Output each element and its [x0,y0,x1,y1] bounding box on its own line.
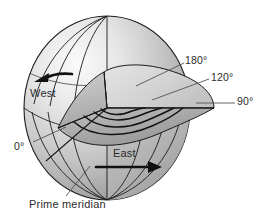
globe-diagram [0,0,264,220]
label-0-degrees: 0° [14,140,24,152]
label-120-degrees: 120° [211,71,234,83]
label-prime-meridian: Prime meridian [29,198,106,210]
longitude-globe-figure: 180° 120° 90° 0° West East Prime meridia… [0,0,264,220]
label-east: East [113,147,136,159]
label-90-degrees: 90° [237,95,253,107]
label-180-degrees: 180° [185,54,208,66]
label-west: West [30,87,56,99]
